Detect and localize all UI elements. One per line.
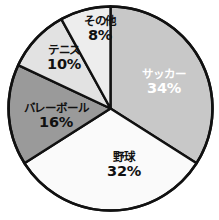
pie-chart: サッカー34%野球32%バレーボール16%テニス10%その他8% <box>0 0 219 220</box>
pie-chart-svg <box>0 0 219 220</box>
